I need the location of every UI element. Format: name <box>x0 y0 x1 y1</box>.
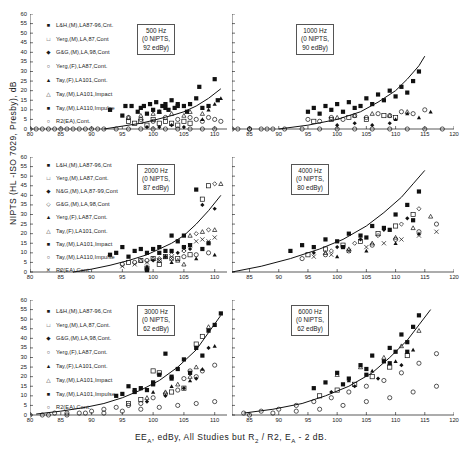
x-caption-p1: EE <box>135 432 147 442</box>
annotation-line: (0 NIPTS, <box>142 316 170 324</box>
x-tick-label: 90 <box>82 417 102 423</box>
legend-item-label: L&H,(M),LA87-96,Cnt <box>54 162 112 168</box>
series-points <box>300 222 439 261</box>
plot-area-6000 <box>232 300 454 419</box>
y-tick-label: 5 <box>13 116 27 122</box>
annotation-line: (0 NIPTS, <box>301 35 329 43</box>
legend-item-label: R2(EA),Cont. <box>54 267 90 273</box>
legend-item[interactable]: △Tay,(M),LA101,Impact <box>43 87 115 101</box>
legend-item[interactable]: ▲Yerg,(F),LA87,Cont. <box>43 211 118 224</box>
legend-item-label: Tay,(M),LA101,Impulse <box>54 391 115 397</box>
legend-item[interactable]: △Tay,(M),LA101,Impact <box>43 373 115 387</box>
x-tick-label: 85 <box>240 417 260 423</box>
y-tick-label: 15 <box>13 383 27 389</box>
series-points <box>242 352 439 416</box>
annotation-line: (0 NIPTS, <box>296 316 324 324</box>
x-tick-label: 100 <box>143 274 163 280</box>
y-tick-label: 15 <box>13 97 27 103</box>
legend-item-label: R2(EA),Cont. <box>54 118 90 124</box>
legend-item[interactable]: ✕R2(EA),Cont. <box>43 264 118 277</box>
annotation-6000hz: 6000 Hz(0 NIPTS,62 edBy) <box>291 305 329 336</box>
y-tick-label: 35 <box>13 58 27 64</box>
plot-area-1000 <box>232 14 454 133</box>
legend-item-label: L&H,(M),LA87-96,Cnt. <box>54 22 113 28</box>
series-points <box>288 189 421 253</box>
y-tick-label: 30 <box>13 354 27 360</box>
panel-4000hz: 859095100105110115120 <box>232 157 454 288</box>
x-tick-label: 105 <box>356 131 376 137</box>
annotation-line: 1000 Hz <box>301 27 329 35</box>
y-tick-label: 15 <box>13 240 27 246</box>
legend-item[interactable]: □Yerg,(M),LA,87,Cont. <box>43 318 115 332</box>
legend-item[interactable]: ■Tay,(M),LA101,Impact <box>43 237 118 250</box>
x-tick-label: 110 <box>205 274 225 280</box>
legend-item[interactable]: ■L&H,(M),LA87-96,Cnt <box>43 304 115 318</box>
legend-item[interactable]: ○Yerg,(F),LA87,Cont. <box>43 345 115 359</box>
annotation-line: 92 edBy) <box>142 44 170 52</box>
legend-symbol-icon: ■ <box>43 162 54 168</box>
series-points <box>108 187 211 258</box>
legend-symbol-icon: ○ <box>43 118 54 124</box>
legend-item[interactable]: ◆N&G,(M),LA,87-99,Cont <box>43 184 118 197</box>
legend-item-label: Yerg,(M),LA,87,Cont <box>54 36 109 42</box>
legend-item[interactable]: ◆G&G,(M),LA,98,Cont <box>43 46 115 60</box>
legend-symbol-icon: ◇ <box>43 201 54 207</box>
fit-curve <box>244 310 431 414</box>
legend-item[interactable]: ○R2(EA),Cont. <box>43 401 115 415</box>
y-tick-label: 55 <box>13 20 27 26</box>
legend-item[interactable]: △Tay,(F),LA101,Cont. <box>43 224 118 237</box>
legend-item[interactable]: ▲Tay,(F),LA101,Cont. <box>43 73 115 87</box>
y-tick-label: 25 <box>13 78 27 84</box>
legend-item[interactable]: ○Yerg,(F),LA87,Cont. <box>43 59 115 73</box>
x-tick-label: 80 <box>20 274 40 280</box>
y-tick-label: 40 <box>13 49 27 55</box>
y-tick-label: 50 <box>13 173 27 179</box>
legend-item-label: Tay,(F),LA101,Cont. <box>54 363 108 369</box>
x-tick-label: 100 <box>143 131 163 137</box>
legend-symbol-icon: ○ <box>43 349 54 355</box>
legend-3000hz: ■L&H,(M),LA87-96,Cnt□Yerg,(M),LA,87,Cont… <box>43 304 115 414</box>
x-tick-label: 115 <box>415 417 435 423</box>
legend-item[interactable]: ■Tay,(M),LA101,Impulse <box>43 387 115 401</box>
legend-symbol-icon: ■ <box>43 22 54 28</box>
y-tick-label: 10 <box>13 249 27 255</box>
x-tick-label: 85 <box>51 131 71 137</box>
x-tick-label: 115 <box>415 131 435 137</box>
legend-item-label: N&G,(M),LA,87-99,Cont <box>54 188 118 194</box>
legend-item[interactable]: □Yerg,(M),LA87,Cont. <box>43 171 118 184</box>
annotation-line: 3000 Hz <box>142 308 170 316</box>
legend-item-label: Yerg,(F),LA87,Cont. <box>54 214 107 220</box>
legend-item[interactable]: ○R2(EA),Cont. <box>43 115 115 129</box>
annotation-line: 62 edBy) <box>296 325 324 333</box>
x-tick-label: 110 <box>386 417 406 423</box>
legend-item[interactable]: ◇G&G,(M),LA,98,Cont <box>43 198 118 211</box>
figure-root: NIPTS (HL -ISO 7029, Presby), dB EEA, ed… <box>0 0 462 451</box>
y-tick-label: 35 <box>13 344 27 350</box>
legend-item-label: Tay,(M),LA101,Impact <box>54 241 112 247</box>
y-tick-label: 40 <box>13 335 27 341</box>
legend-item[interactable]: ■L&H,(M),LA87-96,Cnt. <box>43 18 115 32</box>
x-tick-label: 85 <box>240 131 260 137</box>
legend-item[interactable]: ◆G&G,(M),LA,98,Cont. <box>43 332 115 346</box>
panel-1000hz: 859095100105110115120 <box>232 14 454 145</box>
y-tick-label: 20 <box>13 373 27 379</box>
annotation-line: 62 edBy) <box>142 325 170 333</box>
legend-symbol-icon: ○ <box>43 63 54 69</box>
x-tick-label: 100 <box>327 131 347 137</box>
legend-symbol-icon: ■ <box>43 105 54 111</box>
legend-item[interactable]: ■L&H,(M),LA87-96,Cnt <box>43 158 118 171</box>
legend-item[interactable]: ▲Tay,(F),LA101,Cont. <box>43 359 115 373</box>
annotation-line: 2000 Hz <box>142 167 170 175</box>
legend-symbol-icon: ○ <box>43 404 54 410</box>
legend-symbol-icon: △ <box>43 228 54 234</box>
y-tick-label: 40 <box>13 192 27 198</box>
legend-item[interactable]: □Yerg,(M),LA,87,Cont <box>43 32 115 46</box>
legend-item-label: Yerg,(F),LA87,Cont. <box>54 349 107 355</box>
legend-item-label: L&H,(M),LA87-96,Cnt <box>54 308 112 314</box>
legend-item[interactable]: ■Tay,(M),LA110,Impulse <box>43 101 115 115</box>
series-points <box>108 77 220 118</box>
legend-item-label: Tay,(F),LA101,Cont. <box>54 228 108 234</box>
legend-item[interactable]: ○Tay,(M),LA110,Impulse <box>43 250 118 263</box>
x-tick-label: 105 <box>356 417 376 423</box>
x-tick-label: 115 <box>415 274 435 280</box>
